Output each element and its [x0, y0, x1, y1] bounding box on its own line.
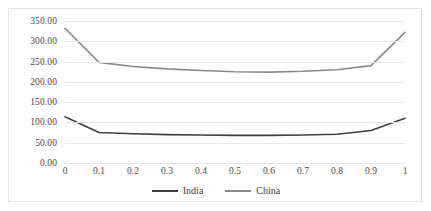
gridline: [65, 62, 405, 63]
y-axis: 0.0050.00100.00150.00200.00250.00300.003…: [9, 21, 61, 163]
legend-item-india[interactable]: India: [152, 185, 204, 196]
x-axis-tick-label: 0.9: [365, 166, 377, 176]
x-axis-tick-label: 0.4: [195, 166, 207, 176]
series-line-china: [65, 28, 405, 72]
gridline: [65, 163, 405, 164]
x-axis: 00.10.20.30.40.50.60.70.80.91: [65, 166, 405, 182]
y-axis-tick-label: 150.00: [30, 97, 57, 107]
x-axis-tick-label: 0.7: [297, 166, 309, 176]
gridline: [65, 41, 405, 42]
legend-label: India: [183, 185, 204, 196]
x-axis-tick-label: 1: [403, 166, 408, 176]
x-axis-tick-label: 0.1: [93, 166, 105, 176]
chart-lines: [65, 21, 405, 163]
gridline: [65, 82, 405, 83]
y-axis-tick-label: 50.00: [35, 138, 57, 148]
x-axis-tick-label: 0.2: [127, 166, 139, 176]
chart-legend: IndiaChina: [9, 185, 423, 196]
legend-line-icon: [152, 190, 178, 192]
y-axis-tick-label: 250.00: [30, 57, 57, 67]
x-axis-tick-label: 0: [63, 166, 68, 176]
series-line-india: [65, 117, 405, 136]
legend-item-china[interactable]: China: [225, 185, 280, 196]
y-axis-tick-label: 200.00: [30, 77, 57, 87]
y-axis-tick-label: 350.00: [30, 16, 57, 26]
gridline: [65, 143, 405, 144]
plot-area: [65, 21, 405, 163]
gridline: [65, 21, 405, 22]
gridline: [65, 122, 405, 123]
gridline: [65, 102, 405, 103]
chart-container: 0.0050.00100.00150.00200.00250.00300.003…: [8, 8, 422, 202]
legend-label: China: [256, 185, 280, 196]
x-axis-tick-label: 0.3: [161, 166, 173, 176]
x-axis-tick-label: 0.5: [229, 166, 241, 176]
y-axis-tick-label: 0.00: [40, 158, 57, 168]
y-axis-tick-label: 300.00: [30, 36, 57, 46]
y-axis-tick-label: 100.00: [30, 117, 57, 127]
x-axis-tick-label: 0.8: [331, 166, 343, 176]
x-axis-tick-label: 0.6: [263, 166, 275, 176]
legend-line-icon: [225, 190, 251, 192]
